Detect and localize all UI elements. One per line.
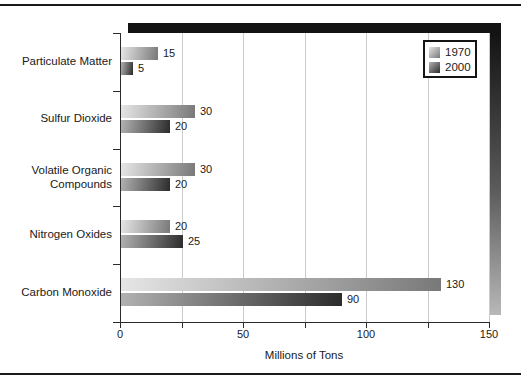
y-axis-tick-1 [113, 91, 120, 92]
x-tick-label-50: 50 [237, 328, 249, 340]
x-axis-tick-125 [428, 323, 429, 328]
bar-1970-sulfur-dioxide [121, 105, 195, 118]
category-label-sulfur-dioxide: Sulfur Dioxide [4, 112, 112, 126]
x-tick-label-150: 150 [480, 328, 498, 340]
bar-value-2000-sulfur-dioxide: 20 [175, 119, 187, 134]
legend-label-2000: 2000 [445, 62, 471, 73]
bar-1970-particulate-matter [121, 47, 158, 60]
category-label-nitrogen-oxides: Nitrogen Oxides [4, 228, 112, 242]
category-label-volatile-organic-compounds: Volatile Organic Compounds [4, 164, 112, 191]
y-axis-tick-4 [113, 264, 120, 265]
bar-value-2000-carbon-monoxide: 90 [347, 292, 359, 307]
y-axis-tick-2 [113, 149, 120, 150]
category-label-particulate-matter: Particulate Matter [4, 55, 112, 69]
bar-value-1970-particulate-matter: 15 [163, 46, 175, 61]
bar-value-1970-volatile-organic-compounds: 30 [200, 162, 212, 177]
bar-value-1970-sulfur-dioxide: 30 [200, 104, 212, 119]
bar-value-1970-carbon-monoxide: 130 [446, 277, 464, 292]
bar-1970-carbon-monoxide [121, 278, 441, 291]
legend: 19702000 [423, 40, 477, 78]
x-axis-title: Millions of Tons [265, 349, 343, 361]
legend-label-1970: 1970 [445, 47, 471, 58]
x-axis-tick-25 [182, 323, 183, 328]
bar-2000-carbon-monoxide [121, 293, 342, 306]
chart-drop-shadow-right [490, 33, 501, 315]
x-tick-label-100: 100 [357, 328, 375, 340]
chart-drop-shadow-top [128, 23, 501, 33]
bar-value-2000-volatile-organic-compounds: 20 [175, 177, 187, 192]
bar-1970-nitrogen-oxides [121, 220, 170, 233]
bar-value-1970-nitrogen-oxides: 20 [175, 219, 187, 234]
bar-2000-nitrogen-oxides [121, 235, 183, 248]
x-tick-label-0: 0 [117, 328, 123, 340]
pollutant-emissions-bar-chart: 15530203020202513090 Particulate MatterS… [0, 0, 521, 382]
bar-value-2000-particulate-matter: 5 [138, 61, 144, 76]
category-label-carbon-monoxide: Carbon Monoxide [4, 286, 112, 300]
legend-item-2000: 2000 [429, 60, 475, 75]
figure-page: 15530203020202513090 Particulate MatterS… [0, 0, 521, 382]
gridline-150 [489, 33, 490, 322]
y-axis-tick-0 [113, 33, 120, 34]
bar-2000-sulfur-dioxide [121, 120, 170, 133]
bar-2000-particulate-matter [121, 62, 133, 75]
legend-swatch-2000 [429, 62, 440, 73]
bar-2000-volatile-organic-compounds [121, 178, 170, 191]
x-axis-line [113, 322, 490, 323]
bar-1970-volatile-organic-compounds [121, 163, 195, 176]
y-axis-tick-3 [113, 206, 120, 207]
legend-item-1970: 1970 [429, 45, 475, 60]
category-axis-labels: Particulate MatterSulfur DioxideVolatile… [4, 33, 112, 322]
legend-swatch-1970 [429, 47, 440, 58]
bar-value-2000-nitrogen-oxides: 25 [188, 234, 200, 249]
x-axis-tick-75 [305, 323, 306, 328]
